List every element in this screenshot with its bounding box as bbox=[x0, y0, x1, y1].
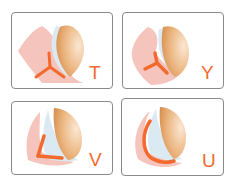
panel-u: U bbox=[121, 98, 224, 176]
panel-label-t: T bbox=[89, 63, 101, 82]
panel-label-v: V bbox=[89, 150, 102, 169]
panel-y: Y bbox=[122, 12, 224, 89]
panel-v: V bbox=[11, 101, 113, 175]
panel-t: T bbox=[11, 12, 113, 89]
panel-label-y: Y bbox=[201, 63, 214, 82]
panel-label-u: U bbox=[202, 151, 216, 170]
